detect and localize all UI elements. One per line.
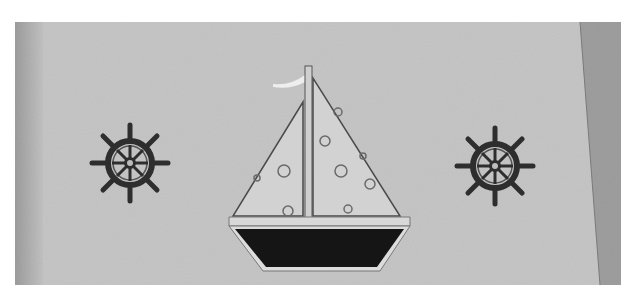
ships-wheel-left	[92, 125, 168, 201]
deck	[229, 217, 410, 226]
mast	[305, 66, 312, 226]
ships-wheel-right	[457, 128, 533, 204]
photo	[0, 0, 634, 295]
